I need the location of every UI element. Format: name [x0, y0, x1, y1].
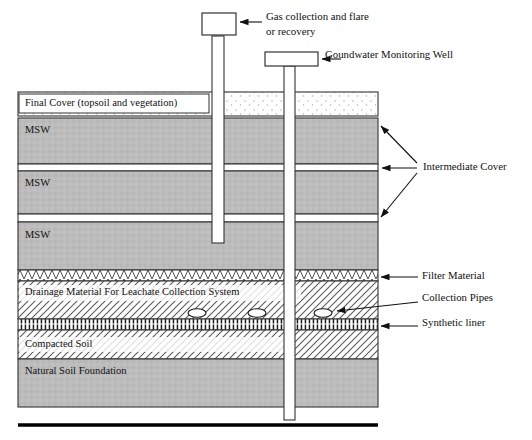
layer-final-cover: Final Cover (topsoil and vegetation) [18, 92, 378, 116]
layer-label-compacted-soil: Compacted Soil [25, 338, 92, 349]
layer-msw-2: MSW [18, 171, 378, 214]
collection-pipe [248, 309, 266, 317]
layer-stack: Final Cover (topsoil and vegetation) MSW… [18, 92, 378, 407]
layer-label-drainage: Drainage Material For Leachate Collectio… [25, 286, 239, 297]
layer-label-foundation: Natural Soil Foundation [25, 365, 127, 376]
layer-msw-1: MSW [18, 118, 378, 164]
layer-msw-3: MSW [18, 222, 378, 270]
layer-drainage: Drainage Material For Leachate Collectio… [18, 281, 378, 319]
gas-well-label-line1: Gas collection and flare [266, 10, 369, 22]
gas-well-shaft [212, 36, 224, 243]
landfill-cross-section-diagram: Final Cover (topsoil and vegetation) MSW… [0, 0, 532, 440]
callout-synthetic-liner: Synthetic liner [381, 316, 486, 328]
intermediate-cover-arrow-1 [381, 126, 417, 163]
collection-pipe [314, 309, 332, 317]
diagram-canvas: Final Cover (topsoil and vegetation) MSW… [0, 0, 532, 440]
gas-well-label-line2: or recovery [266, 25, 316, 37]
monitoring-well-shaft [284, 66, 295, 420]
layer-natural-soil-foundation: Natural Soil Foundation [18, 359, 378, 407]
layer-label-msw-1: MSW [25, 124, 50, 135]
callout-filter-material: Filter Material [381, 269, 485, 281]
layer-compacted-soil: Compacted Soil [18, 330, 378, 359]
gas-flare-box-icon [202, 13, 236, 35]
intermediate-cover-arrow-3 [381, 173, 417, 217]
callout-label-collection-pipes: Collection Pipes [422, 291, 493, 303]
layer-filter-material [18, 270, 378, 281]
monitoring-well-label: Goundwater Monitoring Well [325, 48, 453, 60]
collection-pipe [188, 309, 206, 317]
well-head-box-icon [265, 52, 318, 66]
intermediate-cover-band-1 [18, 164, 378, 171]
intermediate-cover-band-2 [18, 214, 378, 222]
callout-label-filter-material: Filter Material [422, 269, 485, 281]
callout-label-synthetic-liner: Synthetic liner [422, 316, 486, 328]
layer-label-final-cover: Final Cover (topsoil and vegetation) [25, 97, 178, 109]
layer-synthetic-liner [18, 319, 378, 330]
layer-label-msw-2: MSW [25, 177, 50, 188]
callout-intermediate-cover: Intermediate Cover [381, 126, 507, 217]
callout-label-intermediate-cover: Intermediate Cover [423, 160, 507, 172]
layer-label-msw-3: MSW [25, 229, 50, 240]
